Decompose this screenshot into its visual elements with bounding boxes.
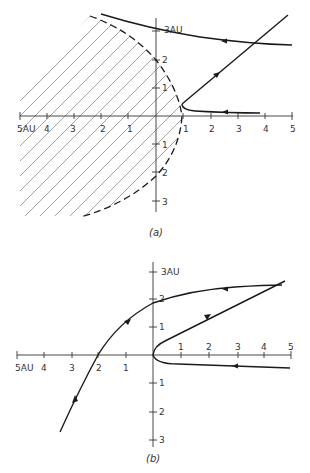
x-label-a-neg4: 4 [44,124,50,134]
y-label-a-neg3: 3 [162,197,168,207]
x-label-b-neg3: 3 [69,363,75,373]
curved-trajectory-b [60,285,282,432]
x-label-a-neg2: 2 [100,124,106,134]
figure-b: 5AU 4 3 2 1 1 2 3 4 5 3AU 2 1 1 2 3 (b) [15,262,294,464]
y-label-b-neg1: 1 [159,378,165,388]
y-label-b-pos3: 3AU [161,267,179,277]
y-label-a-pos2: 2 [162,55,168,65]
figure-a: 5AU 4 3 2 1 1 2 3 4 5 3AU 2 1 1 2 3 (a) [0,14,300,238]
x-label-a-pos2: 2 [209,124,215,134]
x-label-a-neg5: 5AU [17,124,35,134]
x-label-a-neg3: 3 [70,124,76,134]
x-label-a-pos5: 5 [290,124,296,134]
dashed-boundary [80,16,182,217]
arrow-left-icon [232,364,238,369]
y-label-a-pos1: 1 [162,83,168,93]
x-label-b-neg4: 4 [41,363,47,373]
x-label-b-pos5: 5 [288,342,294,352]
y-label-b-neg2: 2 [159,407,165,417]
arrow-left-icon [222,110,228,115]
y-label-a-neg2: 2 [162,168,168,178]
incoming-trajectory-a [182,104,260,113]
x-label-b-pos2: 2 [206,342,212,352]
top-trajectory-a [101,14,292,45]
x-label-b-neg1: 1 [123,363,129,373]
y-label-b-pos1: 1 [159,322,165,332]
outgoing-trajectory-a [182,15,288,104]
y-label-a-neg1: 1 [162,140,168,150]
x-label-a-pos4: 4 [263,124,269,134]
x-label-b-pos3: 3 [235,342,241,352]
caption-b: (b) [146,453,160,464]
caption-a: (a) [149,227,163,238]
figure-canvas: 5AU 4 3 2 1 1 2 3 4 5 3AU 2 1 1 2 3 (a) [0,0,310,473]
x-label-b-neg5: 5AU [15,363,33,373]
x-label-b-pos1: 1 [178,342,184,352]
x-label-a-pos3: 3 [236,124,242,134]
x-label-b-neg2: 2 [96,363,102,373]
incoming-trajectory-b [153,355,290,368]
x-label-a-pos1: 1 [183,124,189,134]
x-label-b-pos4: 4 [261,342,267,352]
y-label-b-neg3: 3 [159,435,165,445]
x-label-a-neg1: 1 [127,124,133,134]
